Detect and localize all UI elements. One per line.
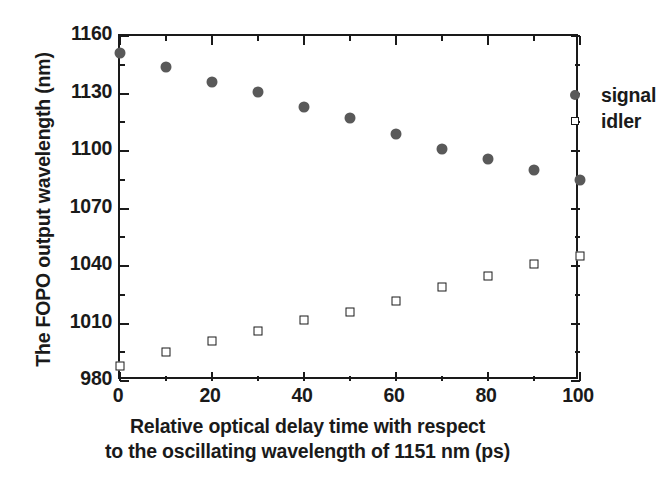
x-axis-tick xyxy=(533,376,535,381)
x-axis-tick-label: 100 xyxy=(543,386,613,406)
x-axis-tick xyxy=(257,376,259,381)
x-axis-tick-label: 80 xyxy=(451,386,521,406)
data-point-signal xyxy=(299,101,310,112)
data-point-idler xyxy=(530,260,539,269)
y-axis-tick xyxy=(575,64,580,66)
y-axis-tick xyxy=(571,323,580,325)
y-axis-tick xyxy=(120,323,129,325)
data-point-idler xyxy=(576,252,585,261)
x-axis-tick-label: 0 xyxy=(83,386,153,406)
y-axis-tick xyxy=(575,351,580,353)
y-axis-tick xyxy=(120,380,129,382)
y-axis-tick xyxy=(120,35,129,37)
chart-legend: signal idler xyxy=(558,82,660,134)
y-axis-tick xyxy=(120,236,125,238)
legend-marker-signal-icon xyxy=(558,90,592,100)
y-axis-tick xyxy=(571,35,580,37)
y-axis-tick xyxy=(571,380,580,382)
y-axis-tick xyxy=(571,265,580,267)
x-axis-tick xyxy=(395,36,397,45)
data-point-signal xyxy=(345,113,356,124)
y-axis-tick xyxy=(120,150,129,152)
y-axis-tick xyxy=(120,179,125,181)
y-axis-tick xyxy=(120,294,125,296)
data-point-idler xyxy=(208,336,217,345)
y-axis-tick-label: 1010 xyxy=(2,312,112,332)
data-point-signal xyxy=(207,77,218,88)
y-axis-tick xyxy=(571,208,580,210)
y-axis-tick-label: 1160 xyxy=(2,24,112,44)
plot-area: signal idler xyxy=(118,34,578,379)
data-point-signal xyxy=(483,153,494,164)
data-point-idler xyxy=(484,271,493,280)
x-axis-tick xyxy=(211,36,213,45)
y-axis-tick xyxy=(120,265,129,267)
data-point-idler xyxy=(162,348,171,357)
x-axis-tick-label: 20 xyxy=(175,386,245,406)
x-axis-tick xyxy=(487,36,489,45)
data-point-idler xyxy=(254,327,263,336)
legend-item-idler: idler xyxy=(558,108,660,134)
data-point-idler xyxy=(300,315,309,324)
legend-marker-idler-icon xyxy=(558,117,592,125)
x-axis-tick-label: 40 xyxy=(267,386,337,406)
x-axis-tick xyxy=(211,372,213,381)
y-axis-tick xyxy=(120,351,125,353)
plot-canvas xyxy=(120,36,580,381)
x-axis-tick xyxy=(349,376,351,381)
data-point-signal xyxy=(437,144,448,155)
x-axis-tick xyxy=(349,36,351,41)
x-axis-tick-labels: 020406080100 xyxy=(118,386,578,412)
legend-item-signal: signal xyxy=(558,82,660,108)
y-axis-tick xyxy=(120,121,125,123)
x-axis-tick xyxy=(441,376,443,381)
y-axis-tick xyxy=(575,294,580,296)
x-axis-tick xyxy=(257,36,259,41)
y-axis-tick-label: 1070 xyxy=(2,197,112,217)
x-axis-tick xyxy=(441,36,443,41)
data-point-idler xyxy=(116,361,125,370)
y-axis-tick-label: 1040 xyxy=(2,254,112,274)
x-axis-tick xyxy=(533,36,535,41)
x-axis-tick xyxy=(579,36,581,45)
x-axis-tick xyxy=(487,372,489,381)
data-point-idler xyxy=(438,283,447,292)
y-axis-tick xyxy=(120,93,129,95)
x-axis-title: Relative optical delay time with respect… xyxy=(0,414,615,464)
data-point-signal xyxy=(161,61,172,72)
x-axis-tick xyxy=(303,372,305,381)
data-point-idler xyxy=(392,296,401,305)
y-axis-tick xyxy=(120,64,125,66)
y-axis-tick xyxy=(571,150,580,152)
x-axis-tick xyxy=(165,376,167,381)
data-point-signal xyxy=(391,128,402,139)
data-point-idler xyxy=(346,308,355,317)
y-axis-tick-label: 1100 xyxy=(2,139,112,159)
data-point-signal xyxy=(115,48,126,59)
x-axis-title-line-1: Relative optical delay time with respect xyxy=(0,414,615,439)
data-point-signal xyxy=(253,86,264,97)
legend-label-idler: idler xyxy=(592,110,641,133)
x-axis-title-line-2: to the oscillating wavelength of 1151 nm… xyxy=(0,439,615,464)
legend-label-signal: signal xyxy=(592,84,656,107)
x-axis-tick xyxy=(395,372,397,381)
x-axis-tick-label: 60 xyxy=(359,386,429,406)
data-point-signal xyxy=(575,174,586,185)
y-axis-tick xyxy=(575,236,580,238)
y-axis-tick-label: 1130 xyxy=(2,82,112,102)
x-axis-tick xyxy=(119,36,121,45)
x-axis-tick xyxy=(303,36,305,45)
x-axis-tick xyxy=(165,36,167,41)
y-axis-tick xyxy=(120,208,129,210)
data-point-signal xyxy=(529,165,540,176)
